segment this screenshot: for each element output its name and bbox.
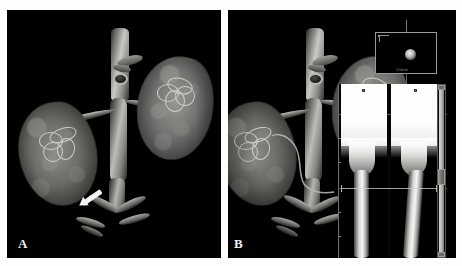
axial-cross-section: 10mm (375, 32, 437, 74)
axial-corner-marker (379, 35, 389, 42)
cpr-view-1[interactable] (341, 84, 387, 258)
slice-scrollbar[interactable] (437, 84, 446, 258)
panel-label-a: A (18, 236, 27, 252)
panel-a: A (7, 10, 221, 258)
panel-b: 10mm (228, 10, 456, 258)
scrollbar-thumb[interactable] (438, 169, 445, 185)
cpr-lumen-2 (391, 84, 437, 258)
measurement-caliper (341, 188, 437, 189)
panel-label-b: B (234, 236, 243, 252)
left-renal-hilum-vessels (157, 78, 201, 118)
panel-divider (222, 10, 227, 258)
axial-scale-label: 10mm (396, 67, 408, 72)
cpr-marker (414, 89, 417, 92)
cpr-lumen-1 (341, 84, 387, 258)
scrollbar-bottom-cap[interactable] (438, 252, 445, 257)
cpr-view-2[interactable] (391, 84, 437, 258)
axial-origin-dot (378, 35, 380, 37)
scrollbar-top-cap[interactable] (438, 85, 445, 90)
volume-rendering-a (7, 10, 221, 258)
left-iliac-branch (118, 211, 151, 227)
axial-vessel-lumen (405, 49, 416, 60)
vessel-ring-artifact (113, 73, 128, 85)
vessel-centerline-path (268, 130, 340, 198)
vessel-ring-artifact-b (308, 73, 323, 85)
cpr-panel-group (338, 84, 446, 258)
cpr-marker (362, 89, 365, 92)
figure-container: A (0, 0, 462, 266)
right-renal-hilum-vessels (37, 128, 83, 168)
